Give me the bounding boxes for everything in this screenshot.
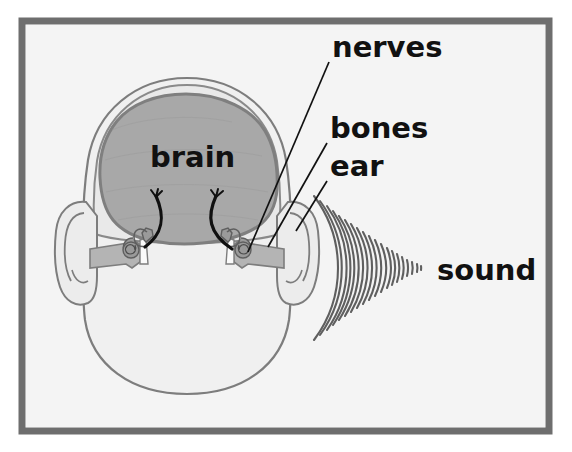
label-brain: brain — [150, 140, 235, 174]
label-ear: ear — [330, 149, 384, 183]
label-sound: sound — [437, 253, 536, 287]
label-nerves: nerves — [332, 30, 442, 64]
label-bones: bones — [330, 111, 428, 145]
hearing-diagram: nerves bones ear sound brain — [0, 0, 572, 452]
figure-root: nerves bones ear sound brain — [0, 0, 572, 452]
